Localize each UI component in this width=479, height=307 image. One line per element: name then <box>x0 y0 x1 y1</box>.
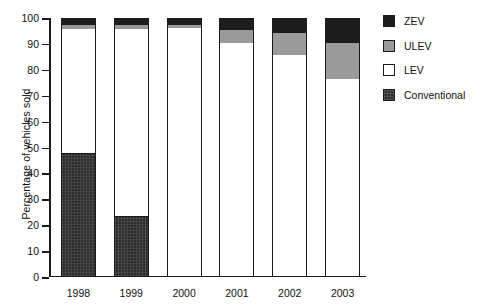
stacked-bar[interactable] <box>272 18 307 277</box>
y-tick-mark <box>42 18 49 20</box>
bar-group <box>49 18 366 277</box>
y-tick-label: 50 <box>27 142 39 153</box>
y-tick-mark <box>42 148 49 150</box>
bar-slot <box>325 18 360 277</box>
legend-item-lev[interactable]: LEV <box>383 64 465 76</box>
stacked-bar[interactable] <box>61 18 96 277</box>
bar-slot <box>114 18 149 277</box>
bar-segment-zev <box>326 19 359 42</box>
y-tick-mark <box>42 70 49 72</box>
y-tick-mark <box>42 251 49 253</box>
bar-segment-ulev <box>326 42 359 79</box>
bar-segment-zev <box>273 19 306 32</box>
legend-label: Conventional <box>404 89 465 101</box>
stacked-bar[interactable] <box>114 18 149 277</box>
bar-segment-lev <box>115 29 148 215</box>
y-tick-label: 90 <box>27 39 39 50</box>
y-tick-mark <box>42 96 49 98</box>
y-tick-label: 20 <box>27 220 39 231</box>
stacked-bar-chart: Percentage of vehicles sold 010203040506… <box>0 0 479 307</box>
legend-label: ULEV <box>404 40 431 52</box>
y-tick-mark <box>42 173 49 175</box>
y-tick-label: 10 <box>27 246 39 257</box>
legend-label: LEV <box>404 64 424 76</box>
y-tick-label: 70 <box>27 90 39 101</box>
legend: ZEVULEVLEVConventional <box>383 15 465 101</box>
stacked-bar[interactable] <box>167 18 202 277</box>
bar-segment-lev <box>326 79 359 276</box>
x-tick-label: 2000 <box>172 287 195 299</box>
y-tick-label: 40 <box>27 168 39 179</box>
bar-segment-lev <box>220 43 253 276</box>
legend-item-conventional[interactable]: Conventional <box>383 89 465 101</box>
y-tick-label: 0 <box>33 272 39 283</box>
x-tick-label: 2003 <box>331 287 354 299</box>
bar-segment-ulev <box>273 32 306 55</box>
y-tick-mark <box>42 122 49 124</box>
y-tick-mark <box>42 44 49 46</box>
legend-swatch-conventional <box>383 89 395 101</box>
y-tick-mark <box>42 199 49 201</box>
bar-segment-lev <box>168 28 201 276</box>
legend-label: ZEV <box>404 15 424 27</box>
y-tick-mark <box>42 225 49 227</box>
plot-area: 0102030405060708090100 19981999200020012… <box>49 18 366 277</box>
legend-item-zev[interactable]: ZEV <box>383 15 465 27</box>
legend-item-ulev[interactable]: ULEV <box>383 40 465 52</box>
bar-slot <box>167 18 202 277</box>
bar-segment-zev <box>220 19 253 29</box>
x-tick-label: 1999 <box>120 287 143 299</box>
legend-swatch-zev <box>383 15 395 27</box>
legend-swatch-lev <box>383 64 395 76</box>
y-tick-label: 80 <box>27 65 39 76</box>
stacked-bar[interactable] <box>219 18 254 277</box>
bar-slot <box>61 18 96 277</box>
bar-segment-conventional <box>115 216 148 276</box>
y-tick-label: 30 <box>27 194 39 205</box>
y-tick-mark <box>42 277 49 279</box>
legend-swatch-ulev <box>383 40 395 52</box>
bar-slot <box>272 18 307 277</box>
x-tick-label: 2001 <box>225 287 248 299</box>
bar-segment-lev <box>62 29 95 152</box>
bar-slot <box>219 18 254 277</box>
y-tick-label: 100 <box>21 13 39 24</box>
y-tick-label: 60 <box>27 116 39 127</box>
bar-segment-lev <box>273 55 306 276</box>
bar-segment-conventional <box>62 153 95 276</box>
stacked-bar[interactable] <box>325 18 360 277</box>
bar-segment-ulev <box>220 29 253 43</box>
x-tick-label: 2002 <box>278 287 301 299</box>
x-tick-label: 1998 <box>67 287 90 299</box>
